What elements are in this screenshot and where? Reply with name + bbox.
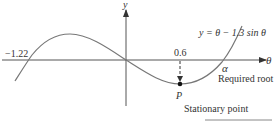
point-p-label: P — [175, 90, 182, 101]
stationary-point-label: Stationary point — [184, 103, 248, 114]
equation-label: y = θ − 1.3 sin θ — [198, 27, 266, 38]
left-root-label: −1.22 — [5, 48, 28, 59]
y-axis-label: y — [122, 0, 128, 10]
stationary-x-label: 0.6 — [174, 47, 187, 58]
stationary-point-marker — [178, 82, 183, 87]
required-root-label: Required root — [218, 73, 273, 84]
diagram-canvas: y θ −1.22 0.6 y = θ − 1.3 sin θ α Requir… — [0, 0, 275, 121]
theta-axis-label: θ — [266, 54, 272, 66]
